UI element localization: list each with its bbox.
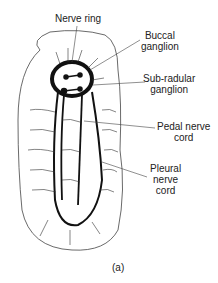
label-line: Pedal nerve	[157, 121, 210, 132]
nerve-ring	[52, 62, 92, 96]
ganglia	[62, 73, 83, 94]
label-nerve-ring: Nerve ring	[55, 13, 101, 24]
label-line: ganglion	[141, 41, 179, 52]
pleural-nerve-cord	[61, 95, 64, 200]
label-line: Pleural	[150, 163, 181, 174]
label-line: Sub-radular	[143, 73, 195, 84]
label-pedal-nerve-cord: Pedal nerve cord	[157, 121, 210, 143]
label-sub-radular-ganglion: Sub-radular ganglion	[143, 73, 195, 95]
label-line: cord	[150, 185, 181, 196]
label-line: Buccal	[141, 30, 179, 41]
label-line: ganglion	[143, 84, 195, 95]
label-line: nerve	[150, 174, 181, 185]
label-line: cord	[157, 132, 210, 143]
figure-caption: (a)	[112, 262, 124, 273]
label-pleural-nerve-cord: Pleural nerve cord	[150, 163, 181, 196]
nerve-branches	[28, 48, 118, 245]
label-buccal-ganglion: Buccal ganglion	[141, 30, 179, 52]
